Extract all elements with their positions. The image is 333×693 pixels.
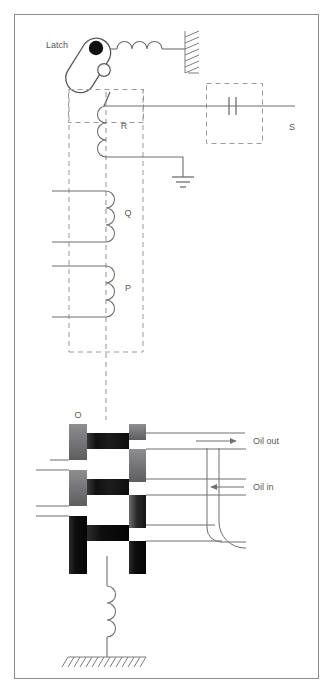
valve-spool-bar-2 [87,479,129,495]
coil-q-label: Q [124,208,131,218]
latch-stem [104,92,110,106]
u-return-pipe [207,448,246,548]
valve-spool-bar-1 [87,433,129,449]
valve-land-right-1b [129,449,146,482]
diagram-canvas: Latch R S [0,0,333,693]
valve-land-left-3 [69,516,87,574]
port-o-label: O [74,410,81,420]
valve-land-right-1 [129,424,146,440]
figure-border [15,15,319,679]
hatched-wall-icon [185,31,199,73]
hatched-ground-base [62,657,146,667]
earth-ground-icon [172,177,194,187]
valve-land-right-2 [129,495,146,528]
oil-in-label: Oil in [253,482,274,492]
valve-land-left-1 [69,424,87,460]
coil-p-label: P [125,283,131,293]
switch-s-label: S [289,122,295,132]
oil-out-label: Oil out [253,436,280,446]
latch-hole-icon [98,64,111,77]
lead-r-to-ground [106,157,183,177]
dashed-box-s [207,84,263,144]
schematic-drawing: Latch R S [0,0,333,693]
coil-r [98,106,107,157]
latch-label: Latch [46,40,68,50]
coil-q [106,191,115,242]
return-spring-bottom [107,586,116,657]
tension-spring-top [106,42,185,49]
coil-r-label: R [121,121,128,131]
valve-spool-bar-3 [87,525,129,541]
valve-land-right-3 [129,541,146,574]
valve-land-left-2 [69,470,87,506]
coil-p [106,266,115,317]
latch-pivot-icon [89,41,103,55]
